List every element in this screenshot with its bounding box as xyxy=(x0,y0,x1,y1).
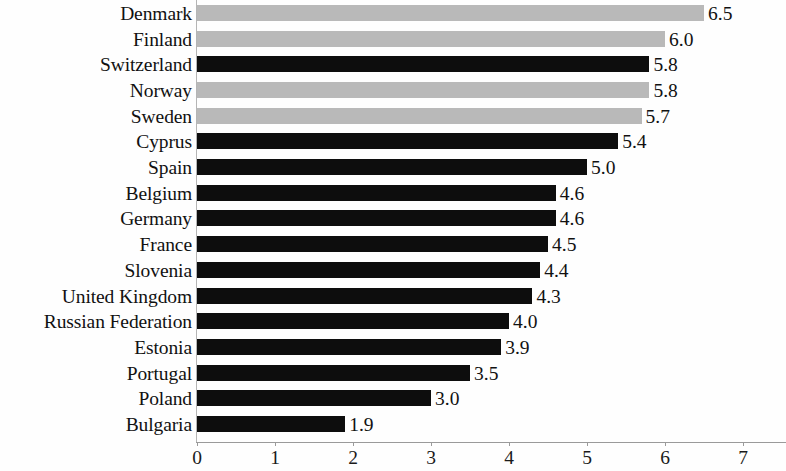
bar-row: Germany4.6 xyxy=(0,206,786,232)
category-label: Cyprus xyxy=(0,131,192,152)
category-label: Russian Federation xyxy=(0,311,192,332)
bar xyxy=(197,365,470,381)
bar xyxy=(197,159,587,175)
bar-value-label: 3.0 xyxy=(431,388,459,409)
bar xyxy=(197,339,501,355)
bar-value-label: 4.6 xyxy=(556,208,584,229)
bar xyxy=(197,416,345,432)
bar-row: Belgium4.6 xyxy=(0,180,786,206)
bar-container xyxy=(197,262,540,278)
bar xyxy=(197,288,532,304)
bar-value-label: 5.8 xyxy=(649,79,677,100)
category-label: Belgium xyxy=(0,182,192,203)
category-label: Spain xyxy=(0,157,192,178)
category-label: United Kingdom xyxy=(0,285,192,306)
bar xyxy=(197,390,431,406)
bar-value-label: 4.4 xyxy=(540,259,568,280)
bar-container xyxy=(197,236,548,252)
bar-row: Cyprus5.4 xyxy=(0,129,786,155)
bar xyxy=(197,313,509,329)
bar-value-label: 6.5 xyxy=(704,2,732,23)
category-label: Bulgaria xyxy=(0,414,192,435)
bar-container xyxy=(197,108,642,124)
x-axis-tick-label: 1 xyxy=(255,446,295,469)
bar-container xyxy=(197,313,509,329)
bar-row: Sweden5.7 xyxy=(0,103,786,129)
bar-container xyxy=(197,288,532,304)
category-label: Finland xyxy=(0,28,192,49)
x-axis-tick-label: 5 xyxy=(567,446,607,469)
category-label: Sweden xyxy=(0,105,192,126)
bar-row: Switzerland5.8 xyxy=(0,51,786,77)
bar xyxy=(197,108,642,124)
x-axis-tick-label: 0 xyxy=(177,446,217,469)
x-axis-tick-label: 4 xyxy=(489,446,529,469)
category-label: Poland xyxy=(0,388,192,409)
bar-row: United Kingdom4.3 xyxy=(0,283,786,309)
x-axis-tick-label: 2 xyxy=(333,446,373,469)
x-axis-tick-label: 3 xyxy=(411,446,451,469)
bar-value-label: 5.4 xyxy=(618,131,646,152)
bar-value-label: 1.9 xyxy=(345,414,373,435)
category-label: Germany xyxy=(0,208,192,229)
bar-row: Denmark6.5 xyxy=(0,0,786,26)
bar xyxy=(197,5,704,21)
bar-container xyxy=(197,5,704,21)
bar-row: France4.5 xyxy=(0,231,786,257)
x-axis-tick-label: 7 xyxy=(723,446,763,469)
bar-row: Poland3.0 xyxy=(0,386,786,412)
category-label: Estonia xyxy=(0,336,192,357)
bar-container xyxy=(197,365,470,381)
bar-rows: Denmark6.5Finland6.0Switzerland5.8Norway… xyxy=(0,0,786,442)
bar-value-label: 4.5 xyxy=(548,234,576,255)
bar xyxy=(197,133,618,149)
bar-row: Spain5.0 xyxy=(0,154,786,180)
bar-row: Russian Federation4.0 xyxy=(0,308,786,334)
category-label: Portugal xyxy=(0,362,192,383)
bar xyxy=(197,236,548,252)
bar-row: Bulgaria1.9 xyxy=(0,411,786,437)
bar-value-label: 5.8 xyxy=(649,54,677,75)
bar-value-label: 4.6 xyxy=(556,182,584,203)
bar-row: Slovenia4.4 xyxy=(0,257,786,283)
bar-container xyxy=(197,159,587,175)
bar-container xyxy=(197,339,501,355)
bar-row: Norway5.8 xyxy=(0,77,786,103)
category-label: Norway xyxy=(0,79,192,100)
category-label: Denmark xyxy=(0,2,192,23)
bar-container xyxy=(197,185,556,201)
bar-value-label: 4.3 xyxy=(532,285,560,306)
bar-value-label: 3.5 xyxy=(470,362,498,383)
bar xyxy=(197,262,540,278)
bar-container xyxy=(197,56,649,72)
bar-chart: Denmark6.5Finland6.0Switzerland5.8Norway… xyxy=(0,0,786,471)
x-axis-tick-label: 6 xyxy=(645,446,685,469)
bar-container xyxy=(197,133,618,149)
x-axis-line xyxy=(196,442,786,443)
bar xyxy=(197,82,649,98)
bar-container xyxy=(197,390,431,406)
bar-container xyxy=(197,82,649,98)
bar-container xyxy=(197,31,665,47)
bar-value-label: 4.0 xyxy=(509,311,537,332)
bar-value-label: 6.0 xyxy=(665,28,693,49)
bar-value-label: 3.9 xyxy=(501,336,529,357)
bar-row: Portugal3.5 xyxy=(0,360,786,386)
bar-container xyxy=(197,416,345,432)
category-label: Switzerland xyxy=(0,54,192,75)
category-label: France xyxy=(0,234,192,255)
bar-row: Estonia3.9 xyxy=(0,334,786,360)
bar-container xyxy=(197,210,556,226)
bar-value-label: 5.7 xyxy=(642,105,670,126)
bar xyxy=(197,31,665,47)
bar-row: Finland6.0 xyxy=(0,26,786,52)
plot-area: Denmark6.5Finland6.0Switzerland5.8Norway… xyxy=(0,0,786,471)
bar xyxy=(197,56,649,72)
bar xyxy=(197,210,556,226)
bar xyxy=(197,185,556,201)
bar-value-label: 5.0 xyxy=(587,157,615,178)
category-label: Slovenia xyxy=(0,259,192,280)
